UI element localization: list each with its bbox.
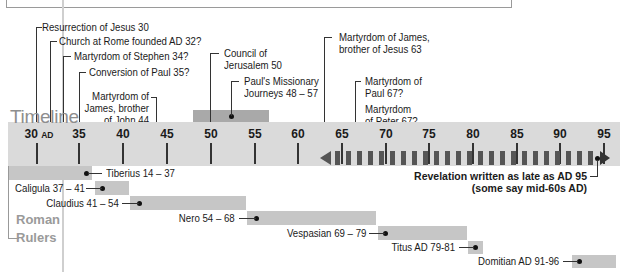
leader-tick	[63, 56, 71, 57]
dash	[401, 151, 406, 165]
dash	[489, 151, 494, 165]
tick-label-45: 45	[152, 127, 182, 141]
dash	[478, 151, 483, 165]
ruler-nero: Nero 54 – 68	[179, 212, 235, 224]
event-line: Martyrdom of	[85, 90, 149, 102]
ruler-titus: Titus AD 79-81	[391, 241, 455, 253]
dash	[346, 151, 351, 165]
leader-tick	[50, 41, 57, 42]
dash	[456, 151, 461, 165]
dash	[434, 151, 439, 165]
event-council: Council of Jerusalem 50	[224, 47, 282, 71]
leader-tick	[122, 203, 139, 204]
leader-tick	[563, 261, 578, 262]
event-line: Paul's Missionary	[244, 75, 319, 87]
roman-rulers-heading: Roman Rulers	[16, 211, 60, 247]
event-line: Martyrdom of James,	[339, 31, 430, 43]
leader-tick	[151, 97, 156, 98]
leader-tick	[210, 53, 219, 54]
leader-journeys	[231, 81, 232, 116]
tick-label-65: 65	[327, 127, 357, 141]
event-paul-martyr: Martyrdom of Paul 67?	[365, 75, 422, 99]
dash	[511, 151, 516, 165]
event-line: Martyrdom of	[365, 75, 422, 87]
event-church-rome: Church at Rome founded AD 32?	[59, 35, 201, 47]
revelation-line: (some say mid-60s AD)	[414, 182, 587, 194]
tick-year: 30	[25, 127, 38, 141]
leader-tick	[459, 247, 474, 248]
ruler-bar-nero	[247, 211, 376, 225]
dash	[335, 151, 340, 165]
tick-45	[166, 143, 168, 164]
event-line: Paul 67?	[365, 87, 422, 99]
dash	[544, 151, 549, 165]
event-james-john: Martyrdom of James, brother of John 44	[85, 90, 149, 126]
ruler-bar-vespasian	[378, 226, 467, 240]
event-paul-conversion: Conversion of Paul 35?	[89, 66, 189, 78]
event-line: James, brother	[85, 102, 149, 114]
dash	[555, 151, 560, 165]
leader-tick	[239, 218, 256, 219]
tick-35	[78, 143, 80, 164]
ruler-vespasian: Vespasian 69 – 79	[287, 227, 366, 239]
tick-label-85: 85	[502, 127, 532, 141]
leader-tick	[324, 37, 332, 38]
tick-60	[297, 143, 299, 164]
event-journeys: Paul's Missionary Journeys 48 – 57	[244, 75, 319, 99]
tick-suffix: AD	[41, 130, 53, 140]
tick-label-35: 35	[64, 127, 94, 141]
event-line: brother of Jesus 63	[339, 43, 430, 55]
ruler-domitian: Domitian AD 91-96	[478, 255, 559, 267]
tick-label-95: 95	[589, 127, 619, 141]
event-line: Martyrdom	[365, 103, 418, 115]
event-stephen: Martyrdom of Stephen 34?	[74, 50, 188, 62]
dash	[390, 151, 395, 165]
tick-label-50: 50	[196, 127, 226, 141]
dash	[445, 151, 450, 165]
dash	[379, 151, 384, 165]
leader-paul-conversion	[79, 72, 80, 123]
tick-40	[122, 143, 124, 164]
top-frame	[6, 0, 512, 8]
tick-label-40: 40	[108, 127, 138, 141]
dash	[577, 151, 582, 165]
tick-50	[210, 143, 212, 164]
tick-30	[36, 143, 38, 164]
tick-55	[254, 143, 256, 164]
leader-tick	[369, 233, 385, 234]
tick-label-90: 90	[545, 127, 575, 141]
event-line: Journeys 48 – 57	[244, 87, 319, 99]
ruler-caligula: Caligula 37 – 41	[15, 182, 85, 194]
tick-label-80: 80	[458, 127, 488, 141]
revelation-range-arrow	[320, 151, 610, 165]
revelation-note: Revelation written as late as AD 95 (som…	[414, 170, 587, 194]
leader-tick	[79, 72, 86, 73]
leader-revelation	[597, 160, 598, 176]
heading-line: Roman	[16, 211, 60, 229]
dash	[412, 151, 417, 165]
event-resurrection: Resurrection of Jesus 30	[42, 21, 149, 33]
dash	[357, 151, 362, 165]
tick-label-70: 70	[371, 127, 401, 141]
dash	[533, 151, 538, 165]
tick-label-30: 30 AD	[19, 127, 59, 141]
dash	[588, 151, 593, 165]
leader-tick	[590, 176, 598, 177]
dash	[500, 151, 505, 165]
revelation-line: Revelation written as late as AD 95	[414, 170, 587, 182]
event-line: Jerusalem 50	[224, 59, 282, 71]
ruler-claudius: Claudius 41 – 54	[46, 197, 119, 209]
dash	[467, 151, 472, 165]
tick-label-55: 55	[240, 127, 270, 141]
tick-label-75: 75	[414, 127, 444, 141]
dash	[423, 151, 428, 165]
leader-tick	[355, 81, 361, 82]
heading-line: Rulers	[16, 229, 60, 247]
timeline-title: Timeline	[10, 106, 79, 128]
leader-tick	[231, 81, 239, 82]
ruler-bar-claudius	[130, 196, 246, 210]
leader-tick	[86, 188, 102, 189]
dash	[566, 151, 571, 165]
leader-tick	[88, 173, 102, 174]
dash	[368, 151, 373, 165]
